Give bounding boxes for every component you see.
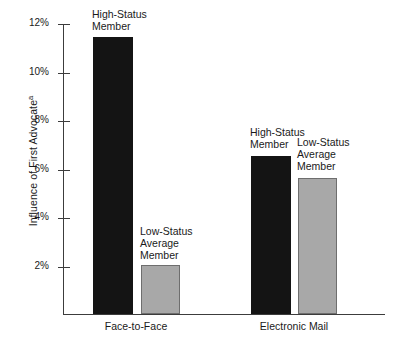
y-tick-label-4: 4% [35,211,49,222]
plot-area: 12% 10% 8% 6% 4% 2% High-Status Member L… [63,18,385,315]
bar-electronic-mail-low-status [298,178,337,314]
bar-chart: Influence of First Advocatea 12% 10% 8% … [0,0,396,342]
bar-face-to-face-high-status [93,37,133,314]
y-tick-label-12: 12% [29,17,49,28]
bar-label-line: Average [140,237,193,249]
bar-label-line: High-Status [92,8,147,20]
bar-electronic-mail-high-status [251,156,291,314]
bar-face-to-face-low-status [141,265,180,314]
x-axis-line [63,314,385,315]
y-tick-label-10: 10% [29,66,49,77]
y-tick-4: 4% [58,218,70,219]
y-tick-label-6: 6% [35,163,49,174]
bar-label-line: Low-Status [140,225,193,237]
y-tick-label-8: 8% [35,114,49,125]
y-tick-label-2: 2% [35,260,49,271]
y-tick-12: 12% [58,24,70,25]
bar-label-line: Member [92,20,147,32]
bar-label-line: Member [140,249,193,261]
x-axis-group-label-face-to-face: Face-to-Face [76,320,196,332]
y-tick-10: 10% [58,73,70,74]
y-tick-6: 6% [58,170,70,171]
bar-label-line: Member [297,160,350,172]
y-tick-2: 2% [58,267,70,268]
x-axis-group-label-electronic-mail: Electronic Mail [234,320,354,332]
bar-label-face-to-face-high-status: High-Status Member [92,8,147,32]
bar-label-line: Low-Status [297,136,350,148]
y-tick-8: 8% [58,121,70,122]
bar-label-line: Average [297,148,350,160]
bar-label-face-to-face-low-status: Low-Status Average Member [140,225,193,262]
bar-label-electronic-mail-low-status: Low-Status Average Member [297,136,350,173]
y-axis-footnote-marker: a [26,96,35,100]
